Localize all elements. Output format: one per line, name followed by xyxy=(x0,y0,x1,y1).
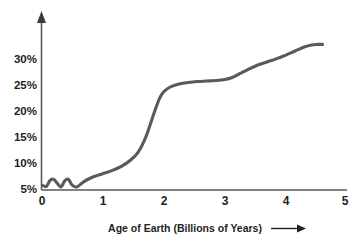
x-tick-label: 5 xyxy=(342,194,349,208)
y-tick-label: 15% xyxy=(14,131,37,143)
x-tick-label: 2 xyxy=(161,194,168,208)
chart-container: 5% 10% 15% 20% 25% 30% 0 1 2 3 4 5 Age o… xyxy=(0,0,360,249)
x-tick-label: 1 xyxy=(100,194,107,208)
y-tick-label: 10% xyxy=(14,157,37,169)
y-tick-label: 5% xyxy=(20,183,37,195)
y-tick-label: 25% xyxy=(14,79,37,91)
x-tick-label: 4 xyxy=(283,194,290,208)
oxygen-vs-age-line-chart: 5% 10% 15% 20% 25% 30% 0 1 2 3 4 5 Age o… xyxy=(0,0,360,249)
x-tick-label: 3 xyxy=(222,194,229,208)
x-axis-title: Age of Earth (Billions of Years) xyxy=(108,222,262,234)
x-tick-label: 0 xyxy=(39,194,46,208)
chart-background xyxy=(0,0,360,249)
y-tick-label: 20% xyxy=(14,105,37,117)
y-tick-label: 30% xyxy=(14,53,37,65)
